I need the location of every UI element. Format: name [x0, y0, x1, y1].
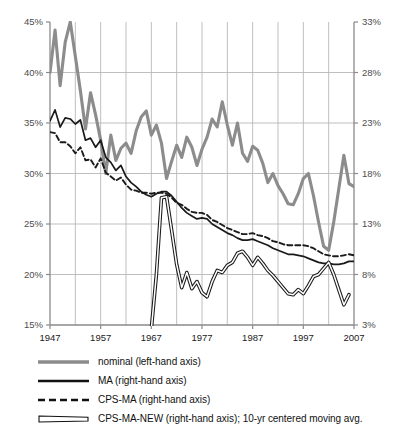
y-axis-left-tick-label: 25%	[24, 218, 44, 229]
double-line-black-swatch	[36, 412, 91, 426]
x-axis-tick-label: 1977	[191, 332, 212, 343]
legend-item-ma: MA (right-hand axis)	[0, 371, 405, 390]
y-axis-left-tick-label: 35%	[24, 117, 44, 128]
chart-figure: 15%20%25%30%35%40%45%3%8%13%18%23%28%33%…	[0, 0, 405, 438]
legend-label-cps-ma: CPS-MA (right-hand axis)	[98, 394, 210, 405]
y-axis-right-tick-label: 3%	[362, 319, 376, 330]
x-axis-tick-label: 2007	[343, 332, 364, 343]
y-axis-right-tick-label: 18%	[362, 168, 382, 179]
x-axis-tick-label: 1987	[242, 332, 263, 343]
y-axis-left-tick-label: 45%	[24, 16, 44, 27]
legend-label-ma: MA (right-hand axis)	[98, 375, 186, 386]
x-axis-tick-label: 1967	[141, 332, 162, 343]
x-axis-tick-label: 1957	[90, 332, 111, 343]
x-axis-tick-label: 1947	[39, 332, 60, 343]
solid-thick-gray-swatch	[36, 355, 91, 369]
legend-item-nominal: nominal (left-hand axis)	[0, 352, 405, 371]
y-axis-left-tick-label: 20%	[24, 269, 44, 280]
line-chart-svg: 15%20%25%30%35%40%45%3%8%13%18%23%28%33%…	[0, 0, 405, 350]
x-axis-tick-label: 1997	[293, 332, 314, 343]
y-axis-right-tick-label: 23%	[362, 117, 382, 128]
chart-legend: nominal (left-hand axis) MA (right-hand …	[0, 352, 405, 438]
y-axis-right-tick-label: 28%	[362, 67, 382, 78]
y-axis-right-tick-label: 33%	[362, 16, 382, 27]
dashed-black-swatch	[36, 393, 91, 407]
y-axis-right-tick-label: 13%	[362, 218, 382, 229]
legend-label-nominal: nominal (left-hand axis)	[98, 356, 201, 367]
y-axis-left-tick-label: 30%	[24, 168, 44, 179]
legend-item-cps-ma: CPS-MA (right-hand axis)	[0, 390, 405, 409]
y-axis-left-tick-label: 40%	[24, 67, 44, 78]
legend-label-cps-ma-new: CPS-MA-NEW (right-hand axis); 10-yr cent…	[98, 413, 363, 424]
y-axis-left-tick-label: 15%	[24, 319, 44, 330]
chart-plot-area: 15%20%25%30%35%40%45%3%8%13%18%23%28%33%…	[0, 0, 405, 350]
solid-thick-black-swatch	[36, 374, 91, 388]
legend-item-cps-ma-new: CPS-MA-NEW (right-hand axis); 10-yr cent…	[0, 409, 405, 428]
y-axis-right-tick-label: 8%	[362, 269, 376, 280]
